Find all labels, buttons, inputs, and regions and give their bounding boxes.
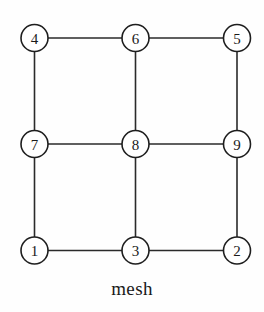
graph-node[interactable]: 7 <box>21 131 48 158</box>
mesh-graph-diagram: 465789132 <box>0 0 264 312</box>
node-label: 7 <box>31 137 39 153</box>
graph-node[interactable]: 2 <box>224 237 251 264</box>
graph-node[interactable]: 3 <box>122 237 149 264</box>
node-label: 8 <box>132 137 140 153</box>
node-label: 4 <box>31 31 39 47</box>
graph-node[interactable]: 6 <box>122 25 149 52</box>
node-label: 3 <box>132 243 140 259</box>
graph-node[interactable]: 1 <box>21 237 48 264</box>
node-label: 9 <box>233 137 241 153</box>
graph-node[interactable]: 4 <box>21 25 48 52</box>
figure-caption: mesh <box>0 278 264 300</box>
graph-node[interactable]: 5 <box>224 25 251 52</box>
graph-node[interactable]: 9 <box>224 131 251 158</box>
node-label: 6 <box>132 31 140 47</box>
node-label: 2 <box>233 243 241 259</box>
node-label: 1 <box>31 243 39 259</box>
mesh-figure: 465789132 mesh <box>0 0 264 312</box>
graph-node[interactable]: 8 <box>122 131 149 158</box>
node-label: 5 <box>233 31 241 47</box>
